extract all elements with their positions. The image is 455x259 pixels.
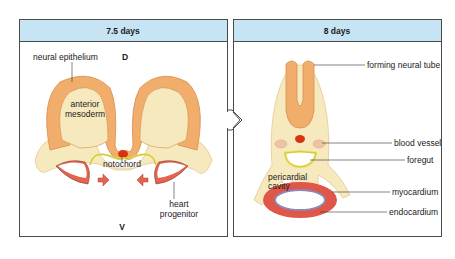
blood-vessel-left xyxy=(275,140,287,148)
label-ventral: V xyxy=(119,222,125,232)
blood-vessel-right xyxy=(313,140,325,148)
notochord xyxy=(118,150,128,158)
label-cavity: cavity xyxy=(268,181,290,191)
label-progenitor: progenitor xyxy=(160,209,198,219)
notochord xyxy=(295,135,305,143)
label-neural-epithelium: neural epithelium xyxy=(33,52,98,62)
label-notochord: notochord xyxy=(103,159,141,169)
label-blood-vessel: blood vessel xyxy=(394,138,441,148)
label-dorsal: D xyxy=(122,52,128,62)
label-heart: heart xyxy=(169,199,189,209)
label-foregut: foregut xyxy=(407,155,434,165)
label-anterior: anterior xyxy=(71,99,100,109)
panel-title: 8 days xyxy=(324,26,351,36)
panel-title: 7.5 days xyxy=(106,26,140,36)
label-myocardium: myocardium xyxy=(392,187,438,197)
label-endocardium: endocardium xyxy=(389,207,438,217)
endocardium xyxy=(275,190,325,210)
embryo-heart-development-diagram: 7.5 days 8 days xyxy=(0,0,455,259)
label-mesoderm: mesoderm xyxy=(65,109,105,119)
label-forming-neural-tube: forming neural tube xyxy=(367,60,441,70)
